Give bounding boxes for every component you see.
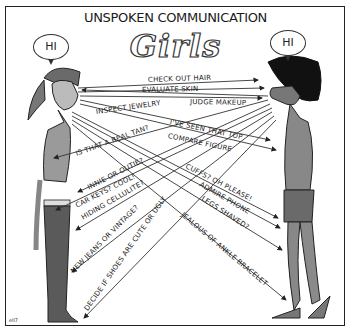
- comic-title: UNSPOKEN COMMUNICATION: [0, 10, 351, 25]
- left-speech-bubble: HI: [33, 34, 69, 60]
- left-girl-figure: [28, 68, 80, 322]
- glance-label: JUDGE MAKEUP: [190, 98, 246, 107]
- right-speech-bubble: HI: [270, 30, 306, 56]
- right-girl-figure: [268, 56, 330, 318]
- artist-signature: ell7: [9, 317, 18, 323]
- glance-label: EVALUATE SKIN: [142, 85, 198, 94]
